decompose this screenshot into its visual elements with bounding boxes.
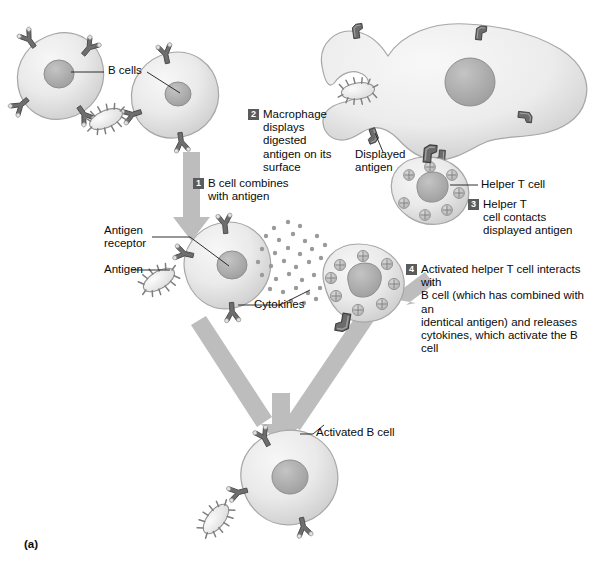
- step-2-text: Macrophage displays digested antigen on …: [263, 108, 351, 174]
- step-1: 1B cell combines with antigen: [193, 177, 313, 203]
- step-3: 3Helper T cell contacts displayed antige…: [468, 198, 596, 238]
- label-activated-b-cell: Activated B cell: [316, 426, 395, 439]
- step-2-badge: 2: [248, 109, 259, 120]
- step-2: 2Macrophage displays digested antigen on…: [248, 108, 358, 174]
- panel-letter: (a): [24, 538, 38, 550]
- label-helper-t-cell: Helper T cell: [481, 178, 545, 191]
- b-cell-top-left: [7, 26, 103, 127]
- step-3-badge: 3: [468, 199, 479, 210]
- label-cytokines: Cytokines: [254, 298, 305, 311]
- step-4-text: Activated helper T cell interacts with B…: [421, 263, 597, 355]
- step-4-badge: 4: [406, 264, 417, 275]
- label-b-cells: B cells: [108, 64, 142, 77]
- step-1-text: B cell combines with antigen: [208, 177, 308, 203]
- activated-b-cell: [191, 424, 337, 544]
- step-1-badge: 1: [193, 178, 204, 189]
- macrophage: [321, 8, 586, 165]
- step-4: 4Activated helper T cell interacts with …: [406, 263, 599, 355]
- step-3-text: Helper T cell contacts displayed antigen: [483, 198, 593, 238]
- label-antigen: Antigen: [104, 263, 143, 276]
- helper-t-cell-lower: [323, 244, 404, 332]
- figure-canvas: B cells Displayed antigen Helper T cell …: [0, 0, 599, 576]
- label-antigen-receptor: Antigen receptor: [104, 224, 164, 250]
- label-displayed-antigen: Displayed antigen: [355, 148, 415, 174]
